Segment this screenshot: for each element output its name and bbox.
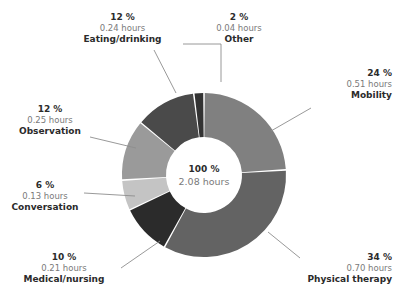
center-total-percent: 100 % — [189, 164, 220, 174]
slice-percent-eating-drinking: 12 % — [60, 12, 185, 23]
slice-label-physical-therapy: 34 % 0.70 hours Physical therapy — [278, 252, 392, 285]
donut-slice-mobility[interactable] — [204, 93, 285, 172]
slice-percent-mobility: 24 % — [288, 68, 392, 79]
leader-line-medical-nursing — [121, 241, 160, 268]
slice-label-observation: 12 % 0.25 hours Observation — [10, 104, 90, 137]
slice-hours-physical-therapy: 0.70 hours — [278, 263, 392, 274]
leader-line-mobility — [271, 108, 311, 131]
slice-percent-other: 2 % — [184, 12, 294, 23]
slice-hours-other: 0.04 hours — [184, 23, 294, 34]
slice-label-conversation: 6 % 0.13 hours Conversation — [6, 180, 84, 213]
leader-line-eating-drinking — [154, 50, 176, 93]
slice-hours-observation: 0.25 hours — [10, 115, 90, 126]
slice-percent-observation: 12 % — [10, 104, 90, 115]
slice-percent-physical-therapy: 34 % — [278, 252, 392, 263]
slice-label-eating-drinking: 12 % 0.24 hours Eating/drinking — [60, 12, 185, 45]
slice-label-mobility: 24 % 0.51 hours Mobility — [288, 68, 392, 101]
donut-chart: 100 % 2.08 hours 12 % 0.24 hours Eating/… — [0, 0, 398, 302]
slice-category-mobility: Mobility — [288, 90, 392, 101]
slice-category-other: Other — [184, 34, 294, 45]
slice-percent-conversation: 6 % — [6, 180, 84, 191]
center-total-hours: 2.08 hours — [179, 176, 230, 187]
slice-category-physical-therapy: Physical therapy — [278, 274, 392, 285]
slice-hours-mobility: 0.51 hours — [288, 79, 392, 90]
slice-hours-medical-nursing: 0.21 hours — [6, 263, 122, 274]
leader-line-other — [183, 44, 221, 82]
slice-category-medical-nursing: Medical/nursing — [6, 274, 122, 285]
slice-label-other: 2 % 0.04 hours Other — [184, 12, 294, 45]
slice-label-medical-nursing: 10 % 0.21 hours Medical/nursing — [6, 252, 122, 285]
slice-percent-medical-nursing: 10 % — [6, 252, 122, 263]
slice-hours-conversation: 0.13 hours — [6, 191, 84, 202]
slice-category-eating-drinking: Eating/drinking — [60, 34, 185, 45]
slice-hours-eating-drinking: 0.24 hours — [60, 23, 185, 34]
slice-category-conversation: Conversation — [6, 202, 84, 213]
slice-category-observation: Observation — [10, 126, 90, 137]
donut-slice-group — [122, 93, 286, 257]
